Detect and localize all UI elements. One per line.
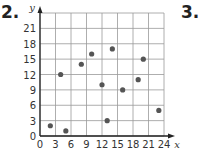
data-point <box>120 87 125 92</box>
data-point <box>89 51 94 56</box>
y-axis-label: y <box>28 2 35 13</box>
x-tick-label: 24 <box>158 139 171 150</box>
x-tick-label: 21 <box>142 139 155 150</box>
x-tick-label: 0 <box>37 139 43 150</box>
x-tick-label: 18 <box>127 139 140 150</box>
y-tick-label: 15 <box>23 54 36 65</box>
y-axis-arrow-icon <box>38 6 43 13</box>
y-tick-label: 12 <box>23 70 36 81</box>
x-tick-label: 12 <box>96 139 109 150</box>
scatter-plot: 03691215182124036912151821xy <box>0 0 204 154</box>
x-tick-label: 3 <box>52 139 58 150</box>
data-point <box>156 108 161 113</box>
y-tick-label: 21 <box>23 23 36 34</box>
data-point <box>48 123 53 128</box>
data-point <box>99 82 104 87</box>
x-axis-arrow-icon <box>168 134 175 139</box>
y-tick-label: 0 <box>30 131 36 142</box>
data-point <box>105 118 110 123</box>
data-point <box>63 128 68 133</box>
data-point <box>110 46 115 51</box>
x-tick-label: 15 <box>111 139 124 150</box>
data-point <box>141 57 146 62</box>
data-point <box>79 62 84 67</box>
data-point <box>58 72 63 77</box>
x-axis-label: x <box>174 139 180 150</box>
y-tick-label: 6 <box>30 100 36 111</box>
data-point <box>136 77 141 82</box>
y-tick-label: 9 <box>30 85 36 96</box>
x-tick-label: 9 <box>83 139 89 150</box>
y-tick-label: 18 <box>23 39 36 50</box>
x-tick-label: 6 <box>68 139 74 150</box>
y-tick-label: 3 <box>30 116 36 127</box>
